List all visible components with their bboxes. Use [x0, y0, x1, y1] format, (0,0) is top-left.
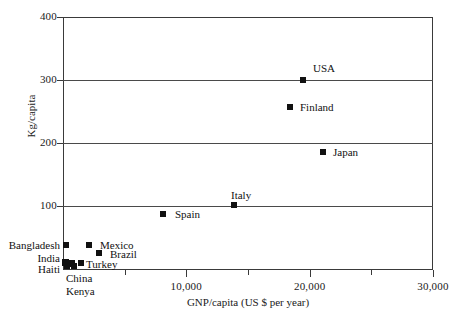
data-point-turkey — [78, 260, 84, 266]
data-point-usa — [300, 77, 306, 83]
point-label-haiti: Haiti — [0, 263, 60, 275]
y-tick-label-100-wrap: 100 — [0, 200, 57, 211]
data-point-japan — [320, 149, 326, 155]
gridline-200 — [63, 143, 433, 144]
x-tick-30000 — [433, 270, 434, 277]
y-axis-title: Kg/capita — [25, 71, 37, 161]
x-axis-title: GNP/capita (US $ per year) — [63, 296, 433, 308]
point-label-bangladesh: Bangladesh — [0, 239, 60, 251]
data-point-mexico — [86, 242, 92, 248]
point-label-italy: Italy — [231, 189, 251, 201]
y-tick-100 — [57, 206, 63, 207]
x-tick-10000 — [186, 270, 187, 277]
data-point-italy — [231, 202, 237, 208]
data-point-bangladesh — [63, 242, 69, 248]
y-tick-200 — [57, 143, 63, 144]
y-tick-label-400: 400 — [5, 11, 57, 22]
scatter-chart: 400 300 200 100 10,000 20,000 30,000 GNP… — [0, 0, 458, 321]
point-label-finland: Finland — [300, 101, 334, 113]
point-label-kenya: Kenya — [66, 285, 95, 297]
point-label-turkey: Turkey — [86, 258, 117, 270]
y-tick-label-400-wrap: 400 — [0, 11, 57, 22]
x-tick-25000 — [371, 270, 372, 275]
x-tick-label-20000: 20,000 — [270, 280, 350, 292]
x-tick-15000 — [248, 270, 249, 275]
point-label-spain: Spain — [175, 208, 200, 220]
x-tick-20000 — [310, 270, 311, 277]
data-point-kenya — [71, 263, 77, 269]
data-point-finland — [287, 104, 293, 110]
data-point-china — [64, 263, 70, 269]
y-tick-400 — [57, 17, 63, 18]
x-tick-label-30000: 30,000 — [393, 280, 458, 292]
point-label-japan: Japan — [333, 146, 358, 158]
y-tick-label-100: 100 — [5, 200, 57, 211]
point-label-usa: USA — [313, 62, 335, 74]
x-tick-label-10000: 10,000 — [146, 280, 226, 292]
gridline-300 — [63, 80, 433, 81]
y-tick-300 — [57, 80, 63, 81]
point-label-china: China — [66, 272, 92, 284]
x-tick-5000 — [125, 270, 126, 275]
gridline-100 — [63, 206, 433, 207]
data-point-spain — [160, 211, 166, 217]
